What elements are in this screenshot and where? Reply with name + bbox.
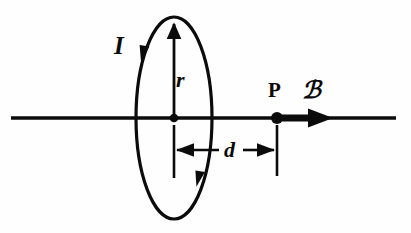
physics-diagram-figure: I r d P ℬ [0,0,411,233]
diagram-canvas [0,0,411,233]
loop-center-dot [170,114,179,123]
distance-label: d [224,139,235,161]
point-p-label: P [268,80,281,101]
field-point-p-dot [271,112,283,124]
magnetic-field-label: ℬ [302,78,320,102]
magnetic-field-arrowhead [308,109,333,128]
current-label: I [114,33,124,58]
radius-label: r [176,69,185,91]
